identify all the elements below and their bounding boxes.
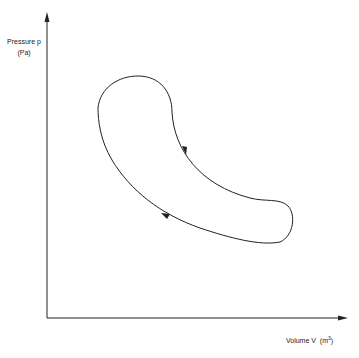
x-axis-label-text: Volume V [286,337,316,344]
y-axis-label: Pressure p (Pa) [2,36,46,58]
y-axis-label-text: Pressure p [2,36,46,47]
x-axis-unit-close: ) [331,337,333,344]
x-axis-unit: (m3) [320,337,333,344]
cycle-loop [98,76,293,243]
y-axis-arrowhead-icon [45,12,50,22]
x-axis-arrowhead-icon [338,316,348,321]
pv-diagram [0,0,359,358]
y-axis-unit: (Pa) [2,47,46,58]
x-axis-label: Volume V (m3) [286,335,333,344]
x-axis-unit-base: (m [320,337,328,344]
cycle-arrow-up-left-icon [161,213,170,219]
